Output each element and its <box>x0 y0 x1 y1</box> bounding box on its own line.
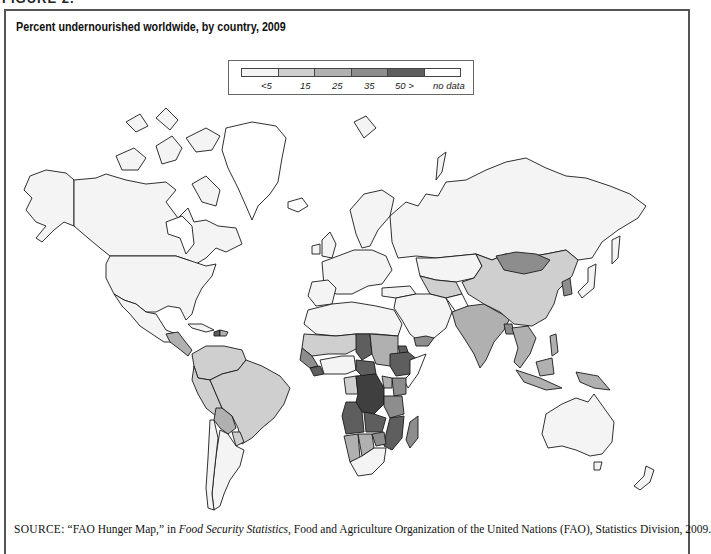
region-papua <box>576 372 610 390</box>
region-new-zealand <box>634 466 654 490</box>
legend-swatch-15-25 <box>315 69 352 76</box>
region-iceland <box>288 198 308 212</box>
source-label: SOURCE: <box>14 523 65 535</box>
region-kenya <box>392 378 406 396</box>
region-yemen <box>414 336 434 346</box>
legend-swatch-nodata <box>425 69 461 76</box>
legend-swatch-lt5 <box>242 69 279 76</box>
map-title: Percent undernourished worldwide, by cou… <box>16 20 286 34</box>
legend-color-bar <box>241 68 461 77</box>
region-gulf-guinea <box>320 356 356 374</box>
source-publication: Food Security Statistics <box>179 523 288 535</box>
region-uganda <box>382 376 392 388</box>
region-svalbard <box>354 116 376 138</box>
region-russia <box>390 158 646 260</box>
region-australia <box>542 394 614 456</box>
region-central-america <box>166 332 192 356</box>
region-southeast-asia <box>512 326 536 368</box>
region-madagascar <box>406 416 418 448</box>
region-sahel <box>302 334 358 356</box>
region-novaya-zemlya <box>436 152 446 180</box>
region-north-africa <box>304 302 402 336</box>
source-text-after: , Food and Agriculture Organization of t… <box>288 523 711 535</box>
region-arctic-islands-4 <box>126 114 148 132</box>
region-car <box>356 360 376 376</box>
region-zimbabwe <box>372 432 386 446</box>
region-uk <box>322 232 336 258</box>
region-arctic-islands <box>116 148 146 170</box>
legend-label-15: 15 <box>300 80 311 91</box>
legend-label-25: 25 <box>332 80 343 91</box>
region-tasmania <box>594 462 602 470</box>
region-arctic-islands-2 <box>156 136 182 164</box>
region-alaska <box>24 170 74 242</box>
region-usa <box>106 256 216 320</box>
legend-label-50plus: 50 > <box>395 80 414 91</box>
region-arctic-islands-3 <box>186 128 220 152</box>
region-drc <box>356 374 384 414</box>
region-ireland <box>312 244 320 254</box>
region-arctic-islands-5 <box>192 176 220 206</box>
figure-caption: FIGURE 2. <box>2 0 75 5</box>
legend-swatch-5-15 <box>279 69 316 76</box>
region-tanzania <box>384 396 404 418</box>
region-zambia <box>364 412 386 432</box>
region-kamchatka <box>612 236 620 264</box>
legend-swatch-25-35 <box>352 69 389 76</box>
region-borneo <box>536 358 554 376</box>
region-cuba <box>188 324 214 332</box>
legend-swatch-35-50 <box>388 69 425 76</box>
region-mozambique <box>384 416 404 450</box>
source-text-before: “FAO Hunger Map,” in <box>65 523 179 535</box>
region-philippines <box>550 334 558 356</box>
legend-label-nodata: no data <box>433 80 465 91</box>
region-dominican-rep <box>220 330 228 336</box>
region-scandinavia <box>350 190 394 248</box>
region-greenland <box>222 122 286 220</box>
map-legend: <5 15 25 35 50 > no data <box>228 60 474 95</box>
source-citation: SOURCE: “FAO Hunger Map,” in Food Securi… <box>14 523 711 535</box>
legend-label-35: 35 <box>364 80 375 91</box>
legend-label-lt5: <5 <box>261 80 272 91</box>
region-arctic-islands-6 <box>156 108 178 130</box>
region-japan <box>578 264 596 298</box>
region-iberia <box>308 280 336 306</box>
region-chad <box>356 334 372 360</box>
region-haiti <box>214 330 220 336</box>
world-map <box>6 98 686 518</box>
